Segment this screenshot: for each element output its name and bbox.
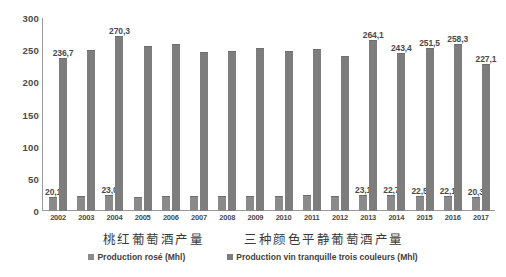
bar-still-2013[interactable]: 264,1 [369,40,377,211]
bar-rose-2016[interactable]: 22,1 [444,196,452,211]
x-axis-tick-2007: 2007 [185,213,213,222]
bar-group-2008 [213,18,241,211]
x-axis-tick-2016: 2016 [439,213,467,222]
bar-value-label: 236,7 [53,48,74,58]
bar-rose-2002[interactable]: 20,1 [49,197,57,211]
legend-item-still[interactable]: Production vin tranquille trois couleurs… [227,252,417,262]
x-axis-tick-2009: 2009 [241,213,269,222]
bar-rose-2009[interactable] [246,196,254,211]
bar-still-2012[interactable] [341,56,349,211]
x-axis-tick-2005: 2005 [129,213,157,222]
bar-rose-2010[interactable] [275,196,283,211]
y-axis-tick-50: 50 [0,179,44,190]
bar-still-2004[interactable]: 270,3 [115,36,123,211]
bar-still-2009[interactable] [256,48,264,211]
bar-value-label: 258,3 [447,34,468,44]
bar-still-2015[interactable]: 251,5 [426,48,434,211]
bar-group-2014: 22,7243,4 [382,18,410,211]
bar-still-2002[interactable]: 236,7 [59,58,67,211]
x-axis-tick-2008: 2008 [213,213,241,222]
bar-value-label: 227,1 [476,54,497,64]
x-axis-tick-2013: 2013 [354,213,382,222]
x-axis-tick-2004: 2004 [100,213,128,222]
bar-rose-2015[interactable]: 22,5 [416,196,424,211]
bar-group-2012 [326,18,354,211]
bar-rose-2008[interactable] [218,196,226,211]
bar-group-2007 [185,18,213,211]
bar-still-2003[interactable] [87,50,95,211]
y-axis-tick-0: 0 [0,211,44,222]
y-axis-tick-300: 300 [0,18,44,29]
y-axis-tick-150: 150 [0,115,44,126]
bar-rose-2005[interactable] [134,197,142,212]
bar-still-2007[interactable] [200,52,208,211]
y-axis-tick-200: 200 [0,82,44,93]
bar-group-2005 [129,18,157,211]
x-axis-tick-2012: 2012 [326,213,354,222]
bar-group-2013: 23,1264,1 [354,18,382,211]
bar-group-2002: 20,1236,7 [44,18,72,211]
bar-rose-2006[interactable] [162,196,170,211]
bar-group-2009 [241,18,269,211]
bar-chart: 300250200150100500 20,1236,723,0270,323,… [0,0,506,277]
bar-group-2004: 23,0270,3 [100,18,128,211]
bar-still-2016[interactable]: 258,3 [454,44,462,211]
chart-legend: Production rosé (Mhl) Production vin tra… [0,252,506,262]
legend-swatch-icon-still [227,254,233,260]
bar-rose-2004[interactable]: 23,0 [105,195,113,211]
legend-label-rose: Production rosé (Mhl) [97,252,185,262]
bar-rose-2014[interactable]: 22,7 [387,195,395,211]
caption-rose-cn: 桃红葡萄酒产量 [103,229,205,248]
x-axis-tick-labels: 2002200320042005200620072008200920102011… [44,213,495,222]
bar-group-2011 [298,18,326,211]
bar-rose-2007[interactable] [190,196,198,211]
legend-label-still: Production vin tranquille trois couleurs… [236,252,417,262]
chart-captions: 桃红葡萄酒产量 三种颜色平静葡萄酒产量 [0,229,506,248]
x-axis-tick-2002: 2002 [44,213,72,222]
x-axis-tick-2011: 2011 [298,213,326,222]
x-axis-tick-2010: 2010 [270,213,298,222]
y-axis-tick-250: 250 [0,50,44,61]
legend-swatch-icon-rose [88,254,94,260]
bar-still-2006[interactable] [172,44,180,211]
bar-value-label: 264,1 [363,30,384,40]
bar-group-2003 [72,18,100,211]
bar-group-2006 [157,18,185,211]
x-axis-tick-2015: 2015 [410,213,438,222]
bar-still-2011[interactable] [313,49,321,211]
bar-rose-2012[interactable] [331,196,339,211]
bar-value-label: 270,3 [109,26,130,36]
bar-rose-2017[interactable]: 20,3 [472,197,480,211]
bar-rose-2011[interactable] [303,195,311,211]
x-axis-tick-2014: 2014 [382,213,410,222]
y-axis-tick-100: 100 [0,147,44,158]
bar-value-label: 243,4 [391,43,412,53]
bar-still-2010[interactable] [285,51,293,211]
x-axis-tick-2017: 2017 [467,213,495,222]
x-axis-tick-2003: 2003 [72,213,100,222]
bar-group-2017: 20,3227,1 [467,18,495,211]
caption-still-cn: 三种颜色平静葡萄酒产量 [244,229,404,248]
bar-still-2017[interactable]: 227,1 [482,64,490,211]
bar-group-2010 [270,18,298,211]
bar-group-2016: 22,1258,3 [439,18,467,211]
bar-rose-2013[interactable]: 23,1 [359,195,367,211]
bar-still-2014[interactable]: 243,4 [397,53,405,211]
bar-rose-2003[interactable] [77,196,85,211]
legend-item-rose[interactable]: Production rosé (Mhl) [88,252,185,262]
x-axis-tick-2006: 2006 [157,213,185,222]
bar-still-2005[interactable] [144,46,152,211]
bar-still-2008[interactable] [228,51,236,211]
bar-group-2015: 22,5251,5 [410,18,438,211]
bar-groups: 20,1236,723,0270,323,1264,122,7243,422,5… [44,18,495,211]
bar-value-label: 251,5 [419,38,440,48]
